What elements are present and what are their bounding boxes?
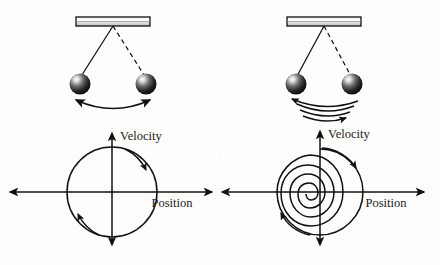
pendulum-bob-left (286, 74, 307, 95)
figure-canvas: Velocity Position (0, 0, 440, 265)
physics-figure: Velocity Position (0, 0, 440, 265)
pendulum-bob-right (342, 74, 363, 95)
pendulum-string-dashed (113, 26, 146, 78)
position-axis-label: Position (152, 196, 194, 210)
pendulum-string-solid (296, 26, 324, 78)
panel-damped: Velocity Position (222, 17, 424, 245)
pendulum-bob-left (70, 74, 91, 95)
pendulum-string-solid (80, 26, 113, 78)
pendulum-damped (286, 17, 363, 121)
phase-portrait-damped: Velocity Position (222, 127, 424, 245)
panel-undamped: Velocity Position (10, 17, 212, 245)
pendulum-string-dashed (324, 26, 352, 78)
trajectory-direction-arrow-upper (322, 148, 356, 168)
position-axis-label: Position (366, 196, 408, 210)
damped-swing-arc-4 (303, 116, 346, 121)
phase-portrait-undamped: Velocity Position (10, 129, 212, 245)
velocity-axis-label: Velocity (120, 129, 162, 143)
pendulum-bob-right (136, 74, 157, 95)
velocity-axis-label: Velocity (328, 127, 370, 141)
pendulum-undamped (70, 17, 157, 109)
swing-arc-arrow (76, 100, 150, 109)
